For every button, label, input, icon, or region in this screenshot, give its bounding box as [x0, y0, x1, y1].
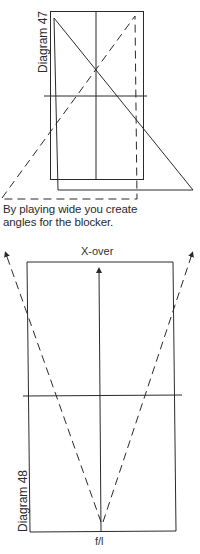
caption-line-2: angles for the blocker. [3, 216, 199, 229]
fl-label: f/l [95, 535, 104, 547]
diagram-48-label: Diagram 48 [16, 470, 30, 532]
midfield-line-48 [23, 395, 182, 396]
caption-line-1: By playing wide you create [3, 203, 199, 216]
diagram-47-caption: By playing wide you create angles for th… [3, 203, 199, 229]
solid-triangle-47 [54, 18, 193, 190]
diagram-47 [2, 11, 193, 199]
center-arrow-48 [99, 270, 101, 531]
diagram-47-label: Diagram 47 [36, 11, 50, 73]
field-rect-48 [27, 262, 176, 532]
diagram-48 [6, 254, 192, 532]
diagrams-canvas [0, 0, 200, 554]
dashed-arrow-right-48 [103, 254, 192, 522]
x-over-label: X-over [81, 245, 113, 257]
dashed-path-47 [2, 16, 137, 199]
